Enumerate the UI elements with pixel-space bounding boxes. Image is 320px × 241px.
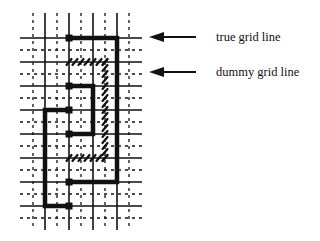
arrow-left-icon [149, 67, 164, 77]
route-terminal [66, 203, 73, 210]
dummy-grid-lines [20, 13, 142, 230]
hatch-mark [103, 89, 108, 95]
annotation-arrows [149, 32, 196, 77]
label-dummy-grid-line: dummy grid line [216, 66, 299, 79]
label-true-grid-line: true grid line [216, 31, 281, 44]
route-terminal [66, 83, 73, 90]
route-terminal [66, 35, 73, 42]
hatch-mark [103, 137, 108, 143]
route-terminal [66, 131, 73, 138]
route-terminal [66, 107, 73, 114]
route-terminal [66, 179, 73, 186]
arrow-left-icon [149, 32, 164, 42]
